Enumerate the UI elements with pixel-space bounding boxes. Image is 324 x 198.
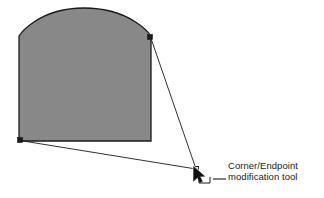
callout-text-block: Corner/Endpoint modification tool [228, 160, 322, 182]
arched-rectangle-shape[interactable] [19, 8, 151, 141]
top-right-corner-handle[interactable] [148, 35, 153, 40]
leader-line-from-top-right-corner [151, 37, 197, 169]
bottom-left-corner-handle[interactable] [18, 138, 23, 143]
callout-text-line-1: Corner/Endpoint [228, 160, 322, 171]
callout-text-line-2: modification tool [228, 171, 322, 182]
leader-line-from-bottom-left-corner [20, 141, 196, 170]
